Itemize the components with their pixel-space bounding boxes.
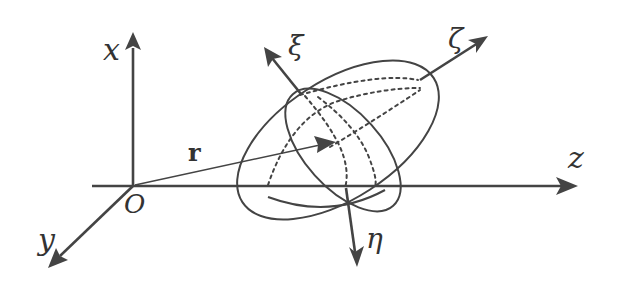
ellipsoid-frame-diagram: x y z O r ξ ζ η — [0, 0, 618, 287]
z-label: z — [567, 140, 584, 175]
x-label: x — [103, 32, 120, 67]
r-label: r — [188, 138, 201, 167]
y-label: y — [36, 222, 56, 257]
eta-label: η — [366, 222, 383, 255]
ellipsoid — [210, 28, 465, 251]
zeta-label: ζ — [448, 22, 465, 55]
xi-label: ξ — [288, 29, 305, 62]
position-vector-r — [135, 136, 336, 185]
y-axis — [48, 186, 133, 268]
x-axis — [125, 32, 141, 186]
z-axis — [92, 177, 578, 195]
origin-label: O — [124, 189, 145, 219]
